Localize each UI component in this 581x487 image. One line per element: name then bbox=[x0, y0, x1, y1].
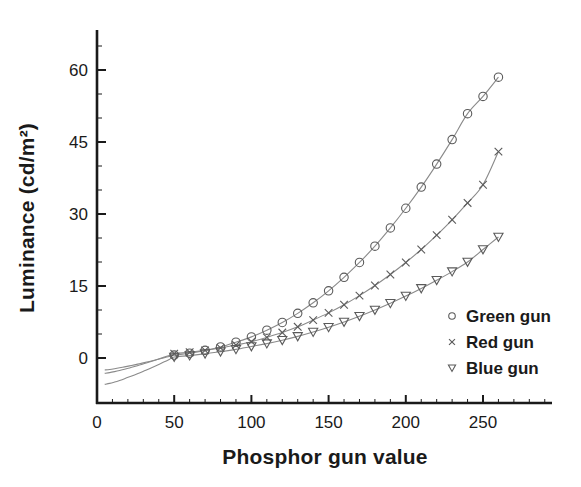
y-tick-label: 60 bbox=[69, 61, 88, 80]
x-tick-label: 50 bbox=[165, 413, 184, 432]
x-tick-label: 100 bbox=[237, 413, 265, 432]
legend-label: Green gun bbox=[466, 307, 551, 326]
x-tick-label: 200 bbox=[392, 413, 420, 432]
x-tick-label: 150 bbox=[314, 413, 342, 432]
x-tick-label: 0 bbox=[92, 413, 101, 432]
luminance-phosphor-chart: 050100150200250 015304560 Phosphor gun v… bbox=[0, 0, 581, 487]
y-tick-label: 30 bbox=[69, 205, 88, 224]
y-tick-label: 45 bbox=[69, 133, 88, 152]
y-tick-label: 15 bbox=[69, 277, 88, 296]
chart-figure: 050100150200250 015304560 Phosphor gun v… bbox=[0, 0, 581, 487]
y-tick-label: 0 bbox=[79, 349, 88, 368]
x-axis-title: Phosphor gun value bbox=[222, 445, 427, 468]
y-axis-title: Luminance (cd/m²) bbox=[15, 123, 38, 313]
legend-label: Blue gun bbox=[466, 359, 539, 378]
legend-label: Red gun bbox=[466, 333, 534, 352]
x-tick-label: 250 bbox=[469, 413, 497, 432]
